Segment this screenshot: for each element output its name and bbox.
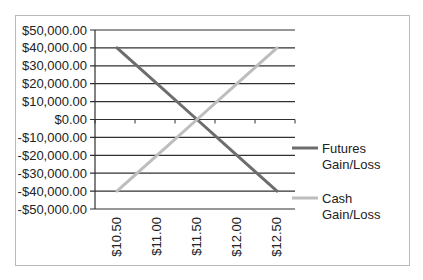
legend-label: Futures — [322, 141, 367, 156]
gridlines — [90, 30, 295, 209]
line-chart: $50,000.00$40,000.00$30,000.00$20,000.00… — [0, 0, 423, 280]
y-tick-label: $20,000.00 — [22, 76, 87, 91]
y-tick-label: -$40,000.00 — [18, 184, 87, 199]
y-tick-label: -$50,000.00 — [18, 202, 87, 217]
legend-label: Gain/Loss — [322, 207, 381, 222]
y-tick-label: -$30,000.00 — [18, 166, 87, 181]
x-tick-label: $11.00 — [149, 217, 164, 256]
legend-label: Cash — [322, 191, 352, 206]
y-tick-label: $40,000.00 — [22, 40, 87, 55]
y-axis-tick-labels: $50,000.00$40,000.00$30,000.00$20,000.00… — [18, 23, 87, 217]
x-tick-label: $12.00 — [229, 217, 244, 257]
y-tick-label: -$10,000.00 — [18, 130, 87, 145]
y-tick-label: $10,000.00 — [22, 94, 87, 109]
x-tick-label: $10.50 — [109, 217, 124, 257]
legend-label: Gain/Loss — [322, 157, 381, 172]
y-tick-label: -$20,000.00 — [18, 148, 87, 163]
y-tick-label: $30,000.00 — [22, 58, 87, 73]
y-tick-label: $0.00 — [54, 112, 87, 127]
x-axis-tick-labels: $10.50$11.00$11.50$12.00$12.50 — [109, 217, 284, 257]
legend: FuturesGain/LossCashGain/Loss — [292, 141, 381, 222]
x-tick-label: $12.50 — [269, 217, 284, 257]
x-tick-label: $11.50 — [189, 217, 204, 256]
y-tick-label: $50,000.00 — [22, 23, 87, 38]
